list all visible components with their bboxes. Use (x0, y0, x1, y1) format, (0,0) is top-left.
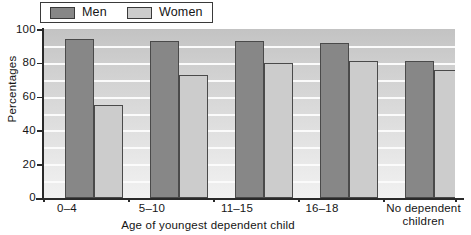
x-axis-title: Age of youngest dependent child (43, 219, 373, 231)
bar-women-16-18 (349, 61, 378, 198)
bar-men-11-15 (235, 41, 264, 198)
bar-women-11-15 (264, 63, 293, 198)
x-category-line-1: 0–4 (25, 202, 109, 215)
y-axis-line (42, 28, 44, 200)
legend-swatch-men-icon (50, 7, 75, 19)
y-tick-label-100: 100 (0, 23, 36, 35)
x-category-line-1: 5–10 (110, 202, 194, 215)
legend-swatch-women-icon (127, 7, 152, 19)
bar-women-0-4 (94, 105, 123, 198)
x-category-line-2: children (376, 215, 471, 228)
x-category-label-no-dependent-children: No dependent children (376, 202, 471, 227)
y-tick-label-80: 80 (0, 56, 36, 68)
x-category-line-1: 16–18 (280, 202, 364, 215)
legend-item-women: Women (127, 6, 203, 19)
bar-women-5-10 (179, 75, 208, 198)
x-category-label-16-18: 16–18 (280, 202, 364, 215)
x-category-label-11-15: 11–15 (195, 202, 279, 215)
legend-label-women: Women (159, 6, 203, 19)
bar-chart: Men Women Percentages 100 80 60 40 20 0 (0, 0, 471, 235)
plot-area (43, 29, 455, 198)
x-category-label-0-4: 0–4 (25, 202, 109, 215)
y-tick-label-40: 40 (0, 124, 36, 136)
x-category-line-1: No dependent (376, 202, 471, 215)
x-category-line-1: 11–15 (195, 202, 279, 215)
bar-men-5-10 (150, 41, 179, 198)
bar-women-no-dep (434, 70, 455, 198)
bar-men-16-18 (320, 43, 349, 198)
legend-item-men: Men (50, 6, 107, 19)
y-tick-label-20: 20 (0, 158, 36, 170)
x-category-label-5-10: 5–10 (110, 202, 194, 215)
chart-legend: Men Women (40, 2, 213, 23)
bar-men-0-4 (65, 39, 94, 198)
x-axis-line (36, 198, 464, 200)
legend-label-men: Men (82, 6, 107, 19)
bar-men-no-dep (405, 61, 434, 198)
y-tick-label-60: 60 (0, 90, 36, 102)
